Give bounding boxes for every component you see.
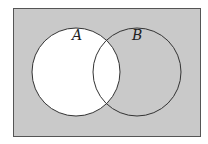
set-a-label: A bbox=[70, 27, 82, 43]
venn-diagram: A B bbox=[0, 0, 208, 144]
set-b-label: B bbox=[131, 27, 142, 43]
